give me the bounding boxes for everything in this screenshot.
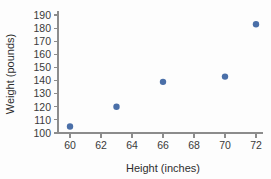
y-axis-tick-label: 120 [33,101,51,113]
y-axis-tick-label: 110 [34,114,51,126]
data-points-layer [67,21,259,130]
x-axis-title: Height (inches) [126,162,200,174]
x-axis-tick-label: 66 [157,139,169,151]
scatter-plot-figure: 100110120130140150160170180190 606264666… [0,0,271,179]
plot-canvas: 100110120130140150160170180190 606264666… [0,0,271,179]
data-point [222,73,228,79]
x-axis-tick-label: 60 [64,139,76,151]
y-axis-tick-label: 180 [33,22,51,34]
data-point [67,123,73,129]
data-point [113,104,119,110]
data-point [160,79,166,85]
x-axis: 60626466687072 [57,133,263,151]
y-axis-tick-label: 170 [33,35,51,47]
x-axis-tick-label: 62 [95,139,107,151]
x-axis-tick-label: 64 [126,139,138,151]
y-axis: 100110120130140150160170180190 [33,9,58,139]
x-axis-tick-label: 72 [250,139,262,151]
y-axis-tick-label: 130 [33,87,51,99]
y-axis-tick-label: 160 [33,48,51,60]
y-axis-tick-label: 150 [33,61,51,73]
data-point [253,21,259,27]
y-axis-title: Weight (pounds) [4,34,16,115]
y-axis-tick-label: 100 [33,127,51,139]
y-axis-tick-label: 190 [33,9,51,21]
y-axis-tick-label: 140 [33,74,51,86]
x-axis-tick-label: 70 [219,139,231,151]
x-axis-tick-label: 68 [188,139,200,151]
